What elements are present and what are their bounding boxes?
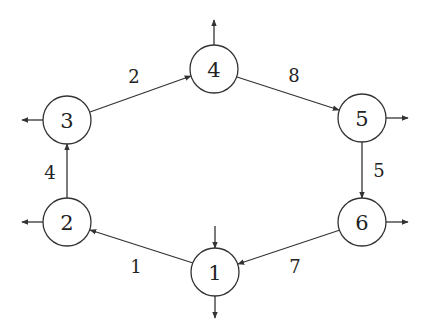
- graph-diagram: 123456 142857: [0, 0, 432, 330]
- node-3: 3: [43, 96, 91, 144]
- edge-weight-label: 7: [289, 256, 300, 277]
- node-5: 5: [338, 94, 386, 142]
- node-label: 6: [355, 211, 368, 235]
- edge-weight-label: 5: [373, 160, 384, 181]
- node-4: 4: [190, 45, 238, 93]
- node-label: 1: [208, 261, 221, 285]
- edge-weight-label: 8: [288, 65, 299, 86]
- node-label: 4: [207, 58, 220, 82]
- edge-weight-label: 2: [128, 66, 139, 87]
- edge-3-to-4: [90, 76, 191, 112]
- node-1: 1: [191, 248, 239, 296]
- nodes-layer: 123456: [43, 45, 386, 296]
- node-label: 5: [355, 107, 368, 131]
- node-2: 2: [43, 198, 91, 246]
- node-label: 2: [60, 211, 73, 235]
- node-label: 3: [60, 109, 73, 133]
- edge-weight-label: 1: [130, 256, 141, 277]
- edge-weight-label: 4: [44, 162, 55, 183]
- node-6: 6: [338, 198, 386, 246]
